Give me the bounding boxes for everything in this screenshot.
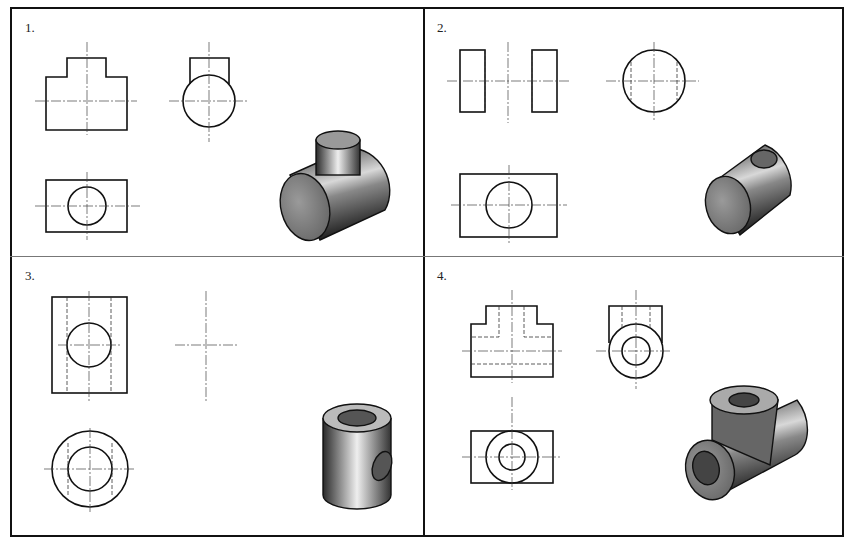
panel-2-top-view (460, 174, 557, 237)
panel-1-isometric (273, 131, 390, 246)
drawings-canvas (0, 0, 848, 542)
panel-1-front-view (46, 58, 127, 130)
panel-2-isometric (699, 145, 791, 239)
panel-4-isometric (679, 386, 807, 505)
panel-3-isometric (323, 404, 396, 509)
